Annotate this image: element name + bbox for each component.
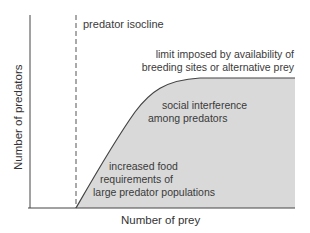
social-annotation-line2: among predators <box>148 112 227 125</box>
limit-annotation-line2: breeding sites or alternative prey <box>138 61 294 74</box>
limit-annotation-line1: limit imposed by availability of <box>148 48 294 61</box>
food-annotation-line1: increased food <box>109 160 178 173</box>
social-annotation-line1: social interference <box>162 99 247 112</box>
food-annotation-line3: large predator populations <box>93 186 215 199</box>
isocline-label: predator isocline <box>83 18 164 31</box>
food-annotation-line2: requirements of <box>100 173 173 186</box>
x-axis-label: Number of prey <box>121 214 200 226</box>
y-axis-label: Number of predators <box>12 65 24 170</box>
